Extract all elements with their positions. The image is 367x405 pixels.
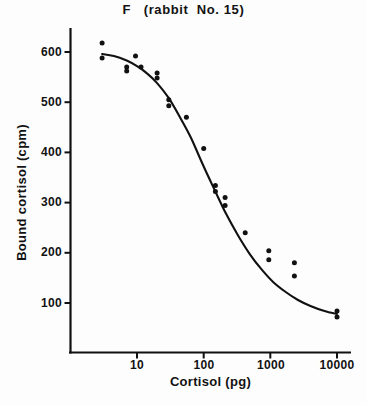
data-point <box>166 97 171 102</box>
data-point <box>100 56 105 61</box>
data-point <box>335 309 340 314</box>
data-point <box>266 248 271 253</box>
data-point <box>184 115 189 120</box>
data-point <box>213 183 218 188</box>
data-point <box>201 146 206 151</box>
data-point <box>166 103 171 108</box>
fitted-curve <box>102 54 337 314</box>
data-point <box>243 230 248 235</box>
data-point <box>223 203 228 208</box>
data-point <box>292 260 297 265</box>
data-point-group <box>100 41 340 320</box>
data-point <box>223 195 228 200</box>
data-point <box>335 315 340 320</box>
data-point <box>155 71 160 76</box>
data-point <box>155 76 160 81</box>
data-point <box>213 189 218 194</box>
data-point <box>100 41 105 46</box>
data-point <box>266 257 271 262</box>
data-point <box>124 69 129 74</box>
data-point <box>292 273 297 278</box>
figure-canvas: F (rabbit No. 15) Bound cortisol (cpm) C… <box>0 0 367 405</box>
plot-area <box>0 0 367 405</box>
data-point <box>133 54 138 59</box>
data-point <box>139 65 144 70</box>
